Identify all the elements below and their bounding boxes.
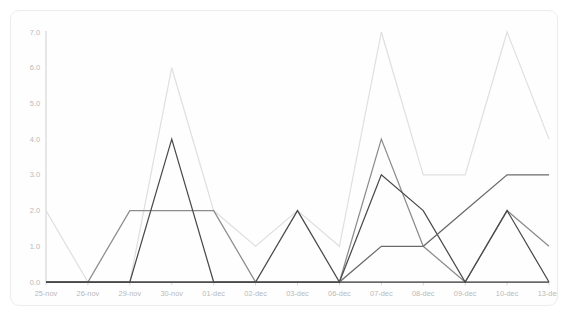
x-tick-label: 01-dec	[202, 289, 225, 298]
x-tick-label: 26-nov	[77, 289, 100, 298]
x-tick-label: 08-dec	[412, 289, 435, 298]
series-line-series-1	[46, 32, 549, 282]
x-tick-label: 09-dec	[454, 289, 477, 298]
y-tick-label: 1.0	[30, 242, 40, 251]
y-tick-label: 3.0	[30, 170, 40, 179]
y-tick-label: 4.0	[30, 135, 40, 144]
x-tick-label: 07-dec	[370, 289, 393, 298]
x-tick-label: 06-dec	[328, 289, 351, 298]
y-axis: 0.01.02.03.04.05.06.07.0	[30, 28, 46, 287]
y-tick-label: 5.0	[30, 99, 40, 108]
x-axis: 25-nov26-nov29-nov30-nov01-dec02-dec03-d…	[35, 282, 558, 298]
y-tick-label: 2.0	[30, 206, 40, 215]
x-tick-label: 29-nov	[119, 289, 142, 298]
series-line-series-3	[46, 139, 549, 282]
x-tick-label: 30-nov	[160, 289, 183, 298]
x-tick-label: 25-nov	[35, 289, 58, 298]
x-tick-label: 10-dec	[496, 289, 519, 298]
x-tick-label: 02-dec	[244, 289, 267, 298]
series-line-series-4	[46, 175, 549, 282]
x-tick-label: 13-dec	[538, 289, 558, 298]
series-lines	[46, 32, 549, 282]
plot-area: 0.01.02.03.04.05.06.07.0 25-nov26-nov29-…	[11, 11, 558, 306]
line-chart: 0.01.02.03.04.05.06.07.0 25-nov26-nov29-…	[11, 11, 558, 306]
y-tick-label: 6.0	[30, 63, 40, 72]
x-tick-label: 03-dec	[286, 289, 309, 298]
chart-card: 0.01.02.03.04.05.06.07.0 25-nov26-nov29-…	[10, 10, 558, 306]
y-tick-label: 0.0	[30, 278, 40, 287]
y-tick-label: 7.0	[30, 28, 40, 37]
